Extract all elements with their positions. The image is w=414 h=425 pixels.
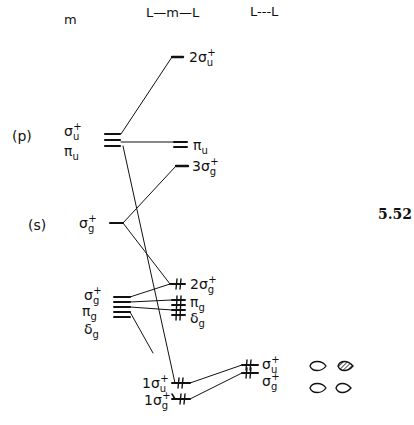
ligand-sigma-g-label: σg+	[262, 374, 280, 388]
figure-number: 5.52	[378, 206, 412, 222]
complex-header: L—m—L	[146, 6, 199, 19]
metal-p-pi-u-label: πu	[64, 144, 79, 158]
complex-2sigma-g-label: 2σg+	[190, 277, 217, 291]
metal-s-label: (s)	[28, 218, 46, 232]
complex-pi-g-label: πg	[190, 295, 205, 309]
complex-delta-g-label: δg	[190, 311, 205, 325]
ligand-header: L---L	[250, 5, 278, 18]
metal-d-delta-g-label: δg	[84, 322, 99, 336]
complex-pi-u-label: πu	[193, 138, 208, 152]
complex-1sigma-u-label: 1σu+	[142, 376, 169, 390]
metal-p-sigma-u-label: σu+	[64, 124, 82, 138]
metal-d-sigma-g-label: σg+	[84, 288, 102, 302]
complex-1sigma-g-label: 1σg+	[144, 393, 171, 407]
metal-s-sigma-g-label: σg+	[79, 216, 97, 230]
metal-d-pi-g-label: πg	[82, 304, 97, 318]
metal-p-label: (p)	[12, 129, 32, 143]
complex-2sigma-u-label: 2σu+	[189, 50, 216, 64]
complex-3sigma-g-label: 3σg+	[192, 159, 219, 173]
ligand-sigma-u-label: σu+	[262, 357, 280, 371]
metal-header: m	[64, 13, 77, 26]
